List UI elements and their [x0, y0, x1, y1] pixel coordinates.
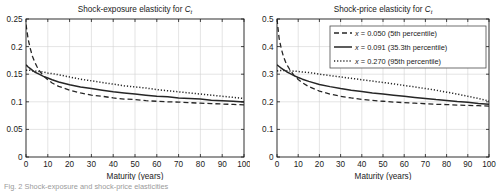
xtick-label: 60: [152, 160, 162, 169]
x-axis-label: Maturity (years): [107, 172, 164, 180]
chart-shock-price: Shock-price elasticity for Ct01020304050…: [247, 0, 497, 180]
figure-panel-pair: Shock-exposure elasticity for Ct01020304…: [0, 0, 497, 192]
xtick-label: 50: [378, 160, 388, 169]
xtick-label: 60: [400, 160, 410, 169]
ytick-label: 0.2: [262, 98, 274, 107]
xtick-label: 0: [24, 160, 29, 169]
chart-title: Shock-price elasticity for Ct: [334, 5, 433, 15]
ytick-label: 0.05: [7, 125, 23, 134]
ytick-label: 0.15: [7, 70, 23, 79]
ytick-label: 0.4: [262, 43, 274, 52]
xtick-label: 0: [275, 160, 280, 169]
ytick-label: 0.1: [11, 98, 23, 107]
xtick-label: 40: [357, 160, 367, 169]
xtick-label: 80: [442, 160, 452, 169]
ytick-label: 0: [18, 153, 23, 162]
ytick-label: 0.5: [262, 15, 274, 24]
legend-label-0: x = 0.050 (5th percentile): [354, 29, 437, 38]
xtick-label: 70: [174, 160, 184, 169]
xtick-label: 40: [109, 160, 119, 169]
xtick-label: 50: [130, 160, 140, 169]
xtick-label: 100: [482, 160, 496, 169]
xtick-label: 30: [336, 160, 346, 169]
xtick-label: 70: [421, 160, 431, 169]
chart-shock-exposure-svg: Shock-exposure elasticity for Ct01020304…: [0, 0, 250, 180]
ytick-label: 0.3: [262, 70, 274, 79]
legend-label-1: x = 0.091 (35.3th percentile): [354, 43, 447, 52]
ytick-label: 0: [269, 153, 274, 162]
chart-shock-price-svg: Shock-price elasticity for Ct01020304050…: [247, 0, 497, 180]
x-axis-label: Maturity (years): [355, 172, 412, 180]
chart-title: Shock-exposure elasticity for Ct: [78, 5, 193, 15]
xtick-label: 90: [463, 160, 473, 169]
xtick-label: 80: [196, 160, 206, 169]
chart-legend: x = 0.050 (5th percentile)x = 0.091 (35.…: [330, 26, 486, 68]
ytick-label: 0.25: [7, 15, 23, 24]
xtick-label: 20: [315, 160, 325, 169]
xtick-label: 10: [294, 160, 304, 169]
ytick-label: 0.2: [11, 43, 23, 52]
figure-caption: Fig. 2 Shock-exposure and shock-price el…: [4, 182, 474, 191]
xtick-label: 10: [43, 160, 53, 169]
xtick-label: 30: [87, 160, 97, 169]
xtick-label: 20: [65, 160, 75, 169]
legend-label-2: x = 0.270 (95th percentile): [354, 57, 441, 66]
ytick-label: 0.1: [262, 125, 274, 134]
xtick-label: 90: [218, 160, 228, 169]
chart-shock-exposure: Shock-exposure elasticity for Ct01020304…: [0, 0, 250, 180]
